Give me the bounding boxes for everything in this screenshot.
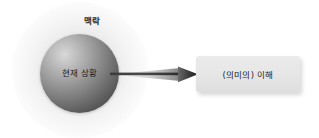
context-label: 맥락 xyxy=(62,14,122,26)
arrow-right-icon xyxy=(110,64,200,84)
current-situation-label: 현재 상황 xyxy=(40,66,119,78)
understanding-result-label: (의미의) 이해 xyxy=(196,68,300,80)
understanding-result-box[interactable]: (의미의) 이해 xyxy=(196,56,300,92)
current-situation-sphere[interactable]: 현재 상황 xyxy=(40,34,119,113)
diagram-canvas: 맥락 현재 상황 xyxy=(0,0,319,138)
